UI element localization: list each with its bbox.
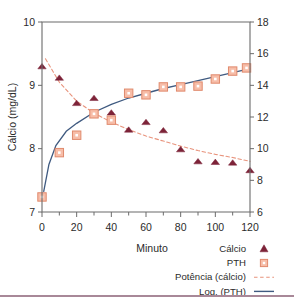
- y-right-tick-label: 16: [257, 47, 269, 59]
- y-right-tick-label: 14: [257, 79, 269, 91]
- y-right-tick-label: 8: [257, 174, 263, 186]
- pth-point-center: [245, 67, 248, 70]
- y-right-tick-label: 6: [257, 206, 263, 218]
- y-right-tick-label: 18: [257, 16, 269, 28]
- legend-square-center: [263, 262, 265, 264]
- bottom-divider: [0, 295, 294, 297]
- x-tick-label: 60: [140, 221, 152, 233]
- pth-point-center: [197, 85, 200, 88]
- legend-label-2: Potência (cálcio): [175, 271, 246, 282]
- calcium-pth-chart: 78910681012141618020406080100120Cálcio (…: [0, 0, 294, 301]
- legend-label-0: Cálcio: [219, 243, 246, 254]
- x-tick-label: 120: [241, 221, 259, 233]
- y-left-tick-label: 7: [29, 206, 35, 218]
- pth-point-center: [145, 94, 148, 97]
- legend-label-1: PTH: [227, 257, 246, 268]
- pth-point-center: [110, 119, 113, 122]
- pth-point-center: [58, 151, 61, 154]
- pth-point-center: [127, 92, 130, 95]
- x-tick-label: 20: [71, 221, 83, 233]
- x-tick-label: 100: [207, 221, 225, 233]
- chart-figure: 78910681012141618020406080100120Cálcio (…: [0, 0, 294, 301]
- pth-point-center: [231, 70, 234, 73]
- pth-point-center: [214, 78, 217, 81]
- y-right-tick-label: 12: [257, 111, 269, 123]
- y-left-tick-label: 8: [29, 142, 35, 154]
- y-right-tick-label: 10: [257, 142, 269, 154]
- y-left-tick-label: 10: [23, 16, 35, 28]
- x-axis-title: Minuto: [136, 242, 168, 254]
- pth-point-center: [179, 86, 182, 89]
- y-axis-title: Cálcio (mg/dL): [6, 83, 18, 151]
- x-tick-label: 0: [39, 221, 45, 233]
- pth-point-center: [93, 113, 96, 116]
- y-left-tick-label: 9: [29, 79, 35, 91]
- pth-point-center: [162, 86, 165, 89]
- pth-point-center: [75, 134, 78, 137]
- x-tick-label: 80: [175, 221, 187, 233]
- x-tick-label: 40: [105, 221, 117, 233]
